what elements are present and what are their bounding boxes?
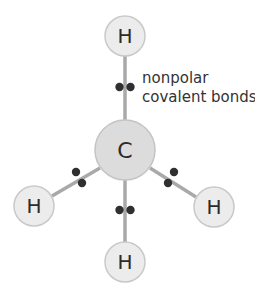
atom-carbon: C [95,120,155,180]
annotation-line-2: covalent bonds [142,88,255,107]
atom-h-top-label: H [117,24,132,48]
atom-h-top: H [105,16,145,56]
atom-h-left: H [14,186,54,226]
annotation-line-1: nonpolar [142,69,255,88]
atom-carbon-label: C [117,138,132,163]
atom-h-right-label: H [206,195,221,219]
methane-diagram: H C H H H [0,0,255,296]
atom-h-right: H [194,187,234,227]
atom-h-bottom-label: H [117,250,132,274]
atom-h-bottom: H [105,242,145,282]
bond-type-annotation: nonpolar covalent bonds [142,69,255,107]
atom-h-left-label: H [26,194,41,218]
